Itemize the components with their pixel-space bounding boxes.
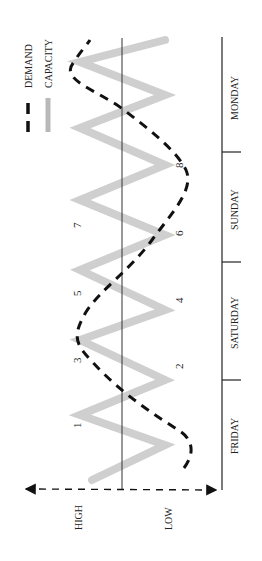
- day-label-sunday: SUNDAY: [229, 189, 240, 230]
- demand-capacity-chart: DEMAND CAPACITY FRIDAY SATURDAY SUNDAY M…: [0, 0, 262, 561]
- point-label-4: 4: [173, 297, 185, 303]
- level-label-high: HIGH: [73, 505, 84, 530]
- point-label-5: 5: [71, 290, 83, 296]
- point-label-1: 1: [71, 423, 83, 429]
- legend-capacity-label: CAPACITY: [43, 39, 54, 88]
- day-label-friday: FRIDAY: [229, 418, 240, 454]
- point-label-6: 6: [173, 230, 185, 236]
- level-label-low: LOW: [163, 507, 174, 530]
- point-label-3: 3: [71, 357, 83, 363]
- legend-demand-label: DEMAND: [23, 44, 34, 88]
- day-label-monday: MONDAY: [229, 76, 240, 120]
- point-label-8: 8: [173, 162, 185, 168]
- level-axis: [26, 489, 216, 490]
- day-label-saturday: SATURDAY: [229, 297, 240, 349]
- legend: DEMAND CAPACITY: [23, 39, 54, 132]
- point-label-2: 2: [173, 364, 185, 370]
- point-label-7: 7: [71, 222, 83, 228]
